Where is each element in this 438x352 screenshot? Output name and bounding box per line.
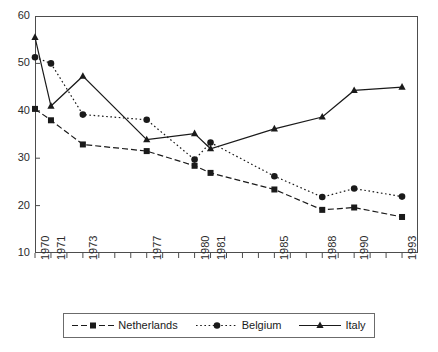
circle-marker	[196, 320, 238, 331]
legend-item-italy[interactable]: Italy	[299, 320, 365, 331]
triangle-marker	[398, 83, 405, 90]
square-marker	[319, 207, 325, 213]
x-axis-label: 1988	[327, 236, 338, 260]
triangle-marker	[191, 130, 198, 137]
circle-marker	[191, 156, 198, 163]
legend-label: Belgium	[242, 320, 282, 331]
circle-marker	[319, 194, 326, 201]
square-marker	[48, 117, 54, 123]
y-axis-label: 20	[2, 200, 30, 211]
legend: NetherlandsBelgiumItaly	[63, 313, 375, 338]
x-axis-label: 1981	[216, 236, 227, 260]
circle-marker	[48, 60, 55, 67]
circle-marker	[271, 173, 278, 180]
y-axis-label: 50	[2, 57, 30, 68]
square-marker	[351, 204, 357, 210]
circle-marker	[80, 111, 87, 118]
series-line-netherlands	[35, 109, 402, 217]
square-marker	[208, 170, 214, 176]
y-axis-label: 30	[2, 152, 30, 163]
legend-item-netherlands[interactable]: Netherlands	[72, 320, 177, 331]
square-marker	[90, 323, 96, 329]
x-axis-label: 1993	[407, 236, 418, 260]
legend-item-belgium[interactable]: Belgium	[196, 320, 282, 331]
legend-label: Italy	[345, 320, 365, 331]
series-line-belgium	[35, 57, 402, 197]
triangle-marker	[31, 33, 38, 40]
circle-marker	[399, 193, 406, 200]
legend-label: Netherlands	[118, 320, 177, 331]
square-marker	[32, 106, 38, 112]
triangle-marker	[79, 72, 86, 79]
x-axis-label: 1985	[279, 236, 290, 260]
square-marker	[72, 320, 114, 331]
y-axis-ticks	[35, 63, 40, 205]
x-axis-label: 1973	[88, 236, 99, 260]
chart-figure: 605040302010 197019711973197719801981198…	[0, 0, 438, 352]
chart-canvas	[0, 0, 438, 352]
x-axis-label: 1971	[56, 236, 67, 260]
x-axis-label: 1990	[359, 236, 370, 260]
x-axis-label: 1980	[200, 236, 211, 260]
y-axis-label: 40	[2, 105, 30, 116]
y-axis-label: 60	[2, 10, 30, 21]
y-axis-label: 10	[2, 247, 30, 258]
series-lines	[35, 37, 402, 217]
circle-marker	[213, 322, 220, 329]
circle-marker	[351, 185, 358, 192]
square-marker	[271, 186, 277, 192]
square-marker	[399, 214, 405, 220]
square-marker	[144, 148, 150, 154]
triangle-marker	[299, 320, 341, 331]
square-marker	[80, 141, 86, 147]
x-axis-label: 1977	[152, 236, 163, 260]
x-axis-label: 1970	[40, 236, 51, 260]
series-markers	[31, 33, 405, 220]
triangle-marker	[317, 322, 324, 329]
series-line-italy	[35, 37, 402, 148]
triangle-marker	[319, 113, 326, 120]
circle-marker	[143, 117, 150, 124]
square-marker	[192, 163, 198, 169]
circle-marker	[32, 54, 39, 61]
